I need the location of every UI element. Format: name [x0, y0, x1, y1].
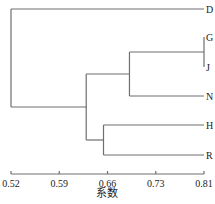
leaf-label-G: G: [206, 32, 213, 43]
x-tick-label-4: 0.81: [195, 178, 213, 189]
x-axis-label: 系数: [96, 187, 118, 199]
dendrogram-chart: DGJNHR 0.520.590.660.730.81 系数: [0, 0, 215, 204]
x-tick-label-3: 0.73: [147, 178, 165, 189]
leaf-label-J: J: [206, 62, 210, 73]
branches: [11, 9, 204, 155]
leaf-label-R: R: [206, 150, 213, 161]
leaf-label-D: D: [206, 4, 213, 15]
leaf-labels: DGJNHR: [206, 4, 213, 161]
x-tick-label-0: 0.52: [2, 178, 20, 189]
x-tick-label-1: 0.59: [51, 178, 69, 189]
leaf-label-H: H: [206, 120, 213, 131]
leaf-label-N: N: [206, 91, 213, 102]
